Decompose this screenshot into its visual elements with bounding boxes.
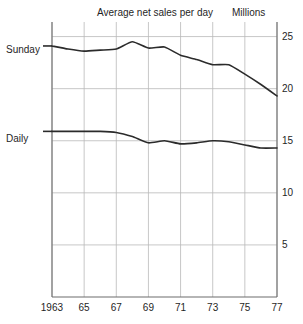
unit-label: Millions [232, 8, 265, 18]
x-tick-label: 77 [271, 303, 282, 313]
series-line-sunday [52, 42, 277, 96]
y-tick-label: 15 [282, 136, 293, 146]
x-tick-label: 73 [207, 303, 218, 313]
series-label-sunday: Sunday [6, 45, 40, 55]
series-line-daily [52, 131, 277, 148]
chart-plot-area [0, 0, 303, 324]
y-tick-label: 25 [282, 32, 293, 42]
series-label-daily: Daily [6, 134, 28, 144]
vertical-gridlines [52, 22, 277, 297]
x-tick-label: 75 [239, 303, 250, 313]
x-tick-label: 71 [175, 303, 186, 313]
x-tick-label: 1963 [41, 303, 63, 313]
x-tick-label: 65 [79, 303, 90, 313]
chart-title: Average net sales per day [97, 8, 213, 18]
chart-container: Average net sales per day Millions Sunda… [0, 0, 303, 324]
axis-lines [52, 22, 277, 297]
x-tick-label: 67 [111, 303, 122, 313]
y-tick-label: 20 [282, 84, 293, 94]
y-tick-label: 10 [282, 188, 293, 198]
series-lines [43, 42, 277, 148]
y-tick-label: 5 [282, 240, 288, 250]
x-tick-label: 69 [143, 303, 154, 313]
